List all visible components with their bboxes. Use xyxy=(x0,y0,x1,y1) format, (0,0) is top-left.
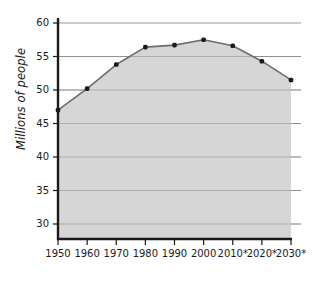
y-tick-label-55: 55 xyxy=(27,51,49,62)
data-point-1990 xyxy=(172,43,177,48)
data-point-1970 xyxy=(114,62,119,67)
chart-container: Millions of people 30354045505560 195019… xyxy=(0,0,318,282)
y-tick-label-30: 30 xyxy=(27,218,49,229)
y-tick-label-50: 50 xyxy=(27,84,49,95)
data-point-1980 xyxy=(143,45,148,50)
y-tick-label-35: 35 xyxy=(27,185,49,196)
x-tick-label-2030est: 2030* xyxy=(272,248,310,259)
y-axis-title: Millions of people xyxy=(14,34,28,164)
y-tick-label-45: 45 xyxy=(27,118,49,129)
data-point-2010est xyxy=(230,43,235,48)
y-tick-label-60: 60 xyxy=(27,17,49,28)
data-point-2000 xyxy=(201,37,206,42)
population-area-chart xyxy=(0,0,318,282)
y-tick-label-40: 40 xyxy=(27,151,49,162)
area-fill xyxy=(58,40,291,238)
data-point-1960 xyxy=(85,86,90,91)
data-point-2020est xyxy=(260,59,265,64)
data-point-2030est xyxy=(289,78,294,83)
